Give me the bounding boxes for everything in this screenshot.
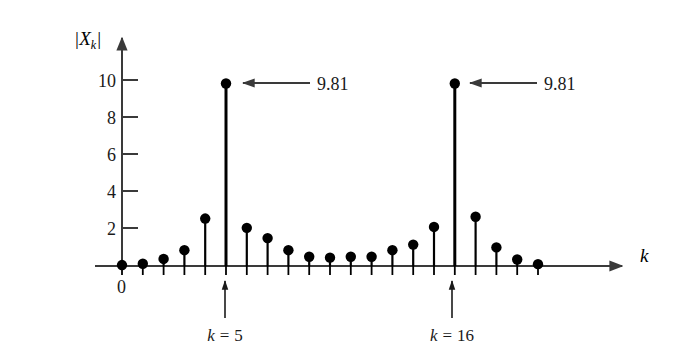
y-tick-label-6: 6	[107, 145, 116, 165]
axis-marker-k16: k=16	[430, 281, 474, 345]
axis-marker-label-k16: k=16	[430, 326, 474, 345]
stem-marker	[429, 222, 439, 232]
stem-marker	[200, 213, 210, 223]
y-tick-label-4: 4	[107, 182, 116, 202]
stem-marker	[470, 212, 480, 222]
stem-marker	[158, 254, 168, 264]
annotation-label-peak-2: 9.81	[544, 74, 576, 94]
x-axis-label: k	[640, 245, 649, 266]
axis-marker-k5-value: 5	[234, 326, 243, 345]
stem-marker	[408, 239, 418, 249]
y-axis-ticks: 10 8 6 4 2	[98, 71, 138, 239]
stem-marker	[491, 242, 501, 252]
axis-marker-k5: k=5	[207, 281, 243, 345]
axis-marker-k5-symbol: k	[207, 326, 215, 345]
axis-marker-label-k5: k=5	[207, 326, 243, 345]
axis-marker-k16-equals: =	[442, 326, 452, 345]
stem-marker	[283, 245, 293, 255]
stem-marker	[221, 78, 231, 88]
y-tick-label-10: 10	[98, 71, 116, 91]
annotation-peak-1: 9.81	[243, 74, 349, 94]
stem-marker	[325, 252, 335, 262]
stem-series	[117, 78, 543, 275]
stem-marker	[366, 252, 376, 262]
axis-marker-k16-symbol: k	[430, 326, 438, 345]
stem-marker	[262, 233, 272, 243]
y-tick-label-8: 8	[107, 108, 116, 128]
axis-marker-k5-equals: =	[220, 326, 230, 345]
dft-magnitude-stem-chart: |Xk| 10 8 6 4 2 k 0 9.81	[0, 0, 679, 363]
y-tick-label-2: 2	[107, 219, 116, 239]
stem-marker	[512, 254, 522, 264]
stem-marker	[346, 252, 356, 262]
stem-plot-figure: |Xk| 10 8 6 4 2 k 0 9.81	[0, 0, 679, 363]
annotation-label-peak-1: 9.81	[317, 74, 349, 94]
axis-marker-k16-value: 16	[457, 326, 474, 345]
origin-label: 0	[117, 277, 126, 297]
stem-marker	[387, 245, 397, 255]
stem-marker	[242, 223, 252, 233]
stem-marker	[304, 252, 314, 262]
stem-marker	[179, 245, 189, 255]
annotation-peak-2: 9.81	[470, 74, 576, 94]
y-axis-label: |Xk|	[74, 28, 101, 52]
stem-marker	[450, 78, 460, 88]
